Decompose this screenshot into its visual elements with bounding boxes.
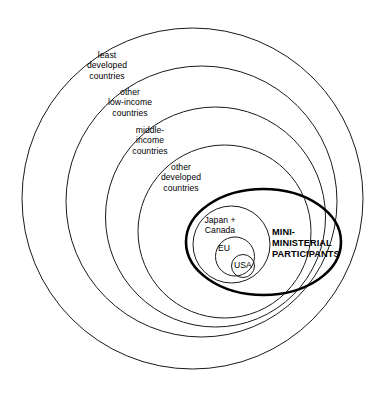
ring-label-usa: USA	[227, 260, 259, 270]
ring-label-other-low-income: other low-income countries	[95, 87, 165, 118]
venn-diagram-canvas	[0, 0, 384, 400]
ring-label-other-developed: other developed countries	[145, 162, 217, 193]
venn-diagram: least developed countries other low-inco…	[0, 0, 384, 400]
overlay-label-mini-ministerial: MINI- MINISTERIAL PARTICIPANTS	[272, 227, 348, 261]
ring-label-japan-canada: Japan + Canada	[190, 215, 250, 236]
ring-label-least-developed: least developed countries	[72, 50, 142, 81]
ring-label-middle-income: middle- income countries	[117, 125, 183, 156]
ring-label-eu: EU	[210, 243, 238, 253]
